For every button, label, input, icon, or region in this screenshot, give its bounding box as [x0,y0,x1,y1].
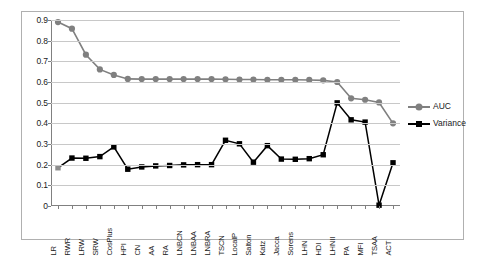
x-axis-tick-label: Katz [260,241,268,256]
gridline [51,144,400,145]
gridline [51,185,400,186]
y-axis-tickmark [48,103,51,104]
x-axis-tick-label: PA [344,247,352,256]
series-variance [55,100,395,208]
data-point-marker [348,117,353,122]
circle-marker-icon [416,103,423,110]
x-axis-tick-label: HDI [316,243,324,256]
data-point-marker [293,157,298,162]
legend-item-auc[interactable]: AUC [408,98,462,115]
x-axis-tick-label: LNBAA [190,232,198,256]
x-axis-tick-label: Sorens [288,233,296,256]
y-axis-tickmark [48,206,51,207]
x-axis-tick-label: LHN [302,241,310,256]
data-point-marker [111,144,116,149]
y-axis-tick-label: 0.3 [24,140,48,149]
data-point-marker [69,26,75,32]
data-point-marker [348,95,354,101]
gridline [51,41,400,42]
y-axis-tickmark [48,165,51,166]
x-axis-tick-label: CosPlus [106,228,114,256]
square-marker-icon [416,121,422,127]
x-axis-tick-label: RA [162,246,170,256]
chart-plot-wrapper: 00.10.20.30.40.50.60.70.80.9 LRRWRLRWSRW… [22,12,463,239]
x-axis-tick-label: ACT [385,241,393,256]
x-axis-tick-label: Salton [246,235,254,256]
series-line [58,22,393,123]
y-axis-tickmark [48,144,51,145]
data-point-marker [307,156,312,161]
y-axis-tickmark [48,61,51,62]
gridline [51,20,400,21]
data-point-marker [321,152,326,157]
gridline [51,165,400,166]
data-point-marker [97,66,103,72]
y-axis-tick-label: 0.7 [24,57,48,66]
data-point-marker [55,165,60,170]
data-point-marker [111,72,117,78]
legend-swatch-variance [408,118,430,130]
data-point-marker [223,138,228,143]
series-auc [55,19,396,126]
x-axis-tick-label: Jacca [274,237,282,256]
x-axis-tick-label: LocalP [232,233,240,256]
y-axis-tick-label: 0.4 [24,119,48,128]
y-axis-tick-label: 0.1 [24,181,48,190]
y-axis-tickmark [48,20,51,21]
y-axis-tick-labels: 00.10.20.30.40.50.60.70.80.9 [24,20,48,206]
data-point-marker [83,156,88,161]
y-axis-tickmark [48,123,51,124]
y-axis-tick-label: 0.6 [24,78,48,87]
data-series-layer [51,20,400,206]
plot-area [51,20,400,206]
x-axis-tick-label: TSAA [371,237,379,256]
gridline [51,103,400,104]
gridline [51,61,400,62]
data-point-marker [83,52,89,58]
data-point-marker [69,155,74,160]
y-axis-tick-label: 0.9 [24,16,48,25]
x-axis-tick-label: HPI [120,244,128,256]
x-axis-tick-labels: LRRWRLRWSRWCosPlusHPICNAARALNBCNLNBAALNB… [51,208,400,258]
data-point-marker [279,156,284,161]
data-point-marker [97,154,102,159]
x-axis-tick-label: LHNII [330,237,338,256]
x-axis-tick-label: LNBCN [176,231,184,256]
legend-label-variance: Variance [433,119,466,128]
legend-label-auc: AUC [433,102,451,111]
chart-container: 00.10.20.30.40.50.60.70.80.9 LRRWRLRWSRW… [21,11,464,240]
chart-legend: AUC Variance [408,98,462,134]
y-axis-tick-label: 0.2 [24,160,48,169]
x-axis-tick-label: SRW [92,239,100,256]
y-axis-tickmark [48,185,51,186]
y-axis-tick-label: 0 [24,202,48,211]
y-axis-tickmark [48,82,51,83]
x-axis-tick-label: MFI [358,243,366,256]
x-axis-tick-label: LNBRA [204,231,212,256]
y-axis-tick-label: 0.5 [24,98,48,107]
x-axis-tick-label: LR [50,246,58,256]
x-axis-tick-label: RWR [64,238,72,256]
x-axis-tick-label: AA [148,246,156,256]
gridline [51,82,400,83]
data-point-marker [125,167,130,172]
y-axis-tickmark [48,41,51,42]
x-axis-tick-label: TSCN [218,236,226,256]
legend-swatch-auc [408,101,430,113]
gridline [51,123,400,124]
series-line [58,103,393,205]
y-axis-tick-label: 0.8 [24,36,48,45]
x-axis-tick-label: LRW [78,240,86,256]
legend-item-variance[interactable]: Variance [408,115,462,132]
x-axis-tick-label: CN [134,245,142,256]
